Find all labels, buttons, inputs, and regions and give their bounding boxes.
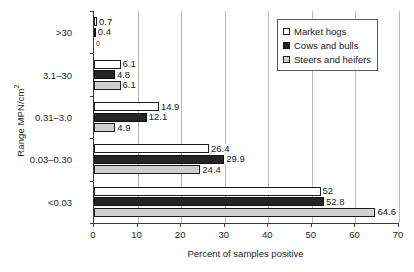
bar[interactable] xyxy=(94,60,121,69)
legend-swatch-icon xyxy=(283,56,290,63)
bar-row: 12.1 xyxy=(94,113,398,122)
bar[interactable] xyxy=(94,123,115,132)
bar-row: 24.4 xyxy=(94,165,398,174)
bar[interactable] xyxy=(94,165,200,174)
x-axis-tick-label: 20 xyxy=(175,229,186,240)
y-axis-tick xyxy=(90,96,94,97)
bar-value-label: 24.4 xyxy=(200,165,221,175)
bar-value-label: 12.1 xyxy=(147,112,168,122)
legend-item-label: Cows and bulls xyxy=(294,40,358,51)
bar-chart: Range MPN/cm2 0.70.40>306.14.86.13.1–301… xyxy=(0,0,414,272)
bar[interactable] xyxy=(94,113,147,122)
y-axis-title-superscript: 2 xyxy=(13,84,20,88)
bar-value-label: 0.4 xyxy=(96,27,111,37)
bar[interactable] xyxy=(94,208,375,217)
bar-row: 29.9 xyxy=(94,155,398,164)
bar-value-label: 6.1 xyxy=(121,59,136,69)
x-axis-tick xyxy=(180,223,181,227)
bar-row: 6.1 xyxy=(94,81,398,90)
bar-value-label: 64.6 xyxy=(375,208,396,218)
bar-row: 52 xyxy=(94,187,398,196)
gridline xyxy=(399,11,400,223)
legend-item-label: Market hogs xyxy=(294,26,346,37)
y-axis-title-text: Range MPN/cm xyxy=(15,88,26,156)
bar[interactable] xyxy=(94,102,159,111)
x-axis-tick xyxy=(398,223,399,227)
x-axis-tick xyxy=(311,223,312,227)
bar-value-label: 0 xyxy=(94,39,100,46)
x-axis-tick-label: 10 xyxy=(131,229,142,240)
bar-value-label: 14.9 xyxy=(159,102,180,112)
x-axis: 010203040506070 xyxy=(93,223,398,224)
legend-item-label: Steers and heifers xyxy=(294,54,371,65)
bar-value-label: 4.8 xyxy=(115,70,130,80)
x-axis-tick xyxy=(137,223,138,227)
bar-value-label: 4.9 xyxy=(115,123,130,133)
y-axis-title: Range MPN/cm2 xyxy=(15,31,26,211)
bar[interactable] xyxy=(94,70,115,79)
legend: Market hogsCows and bullsSteers and heif… xyxy=(277,19,378,71)
bar-value-label: 52 xyxy=(321,187,334,197)
y-axis-tick xyxy=(90,11,94,12)
bar[interactable] xyxy=(94,187,321,196)
bar-row: 52.8 xyxy=(94,197,398,206)
x-axis-tick-label: 50 xyxy=(306,229,317,240)
y-axis-category-label: 0.03–0.30 xyxy=(30,154,72,165)
bar-value-label: 26.4 xyxy=(209,144,230,154)
bar-row: 14.9 xyxy=(94,102,398,111)
bar-row: 4.9 xyxy=(94,123,398,132)
y-axis-tick xyxy=(90,138,94,139)
x-axis-tick xyxy=(93,223,94,227)
bar-value-label: 6.1 xyxy=(121,80,136,90)
x-axis-tick-label: 70 xyxy=(393,229,404,240)
bar-value-label: 0.7 xyxy=(97,17,112,27)
y-axis-category-label: >30 xyxy=(56,27,72,38)
bar[interactable] xyxy=(94,197,324,206)
bar-row: 64.6 xyxy=(94,208,398,217)
bar[interactable] xyxy=(94,155,224,164)
x-axis-tick-label: 40 xyxy=(262,229,273,240)
y-axis-category-label: <0.03 xyxy=(48,196,72,207)
y-axis-tick xyxy=(90,53,94,54)
y-axis-category-label: 0.31–3.0 xyxy=(35,112,72,123)
bar-value-label: 29.9 xyxy=(224,155,245,165)
bar[interactable] xyxy=(94,144,209,153)
x-axis-tick-label: 60 xyxy=(349,229,360,240)
x-axis-tick xyxy=(224,223,225,227)
x-axis-tick xyxy=(267,223,268,227)
bar-value-label: 52.8 xyxy=(324,197,345,207)
y-axis-category-label: 3.1–30 xyxy=(43,69,72,80)
x-axis-tick-label: 0 xyxy=(90,229,95,240)
y-axis-tick xyxy=(90,181,94,182)
legend-swatch-icon xyxy=(283,42,290,49)
legend-item[interactable]: Steers and heifers xyxy=(283,52,371,66)
legend-swatch-icon xyxy=(283,28,290,35)
legend-item[interactable]: Cows and bulls xyxy=(283,38,371,52)
x-axis-title: Percent of samples positive xyxy=(93,248,398,259)
x-axis-tick xyxy=(354,223,355,227)
bar-row: 26.4 xyxy=(94,144,398,153)
bar-row: 4.8 xyxy=(94,70,398,79)
legend-item[interactable]: Market hogs xyxy=(283,24,371,38)
x-axis-tick-label: 30 xyxy=(218,229,229,240)
bar[interactable] xyxy=(94,81,121,90)
